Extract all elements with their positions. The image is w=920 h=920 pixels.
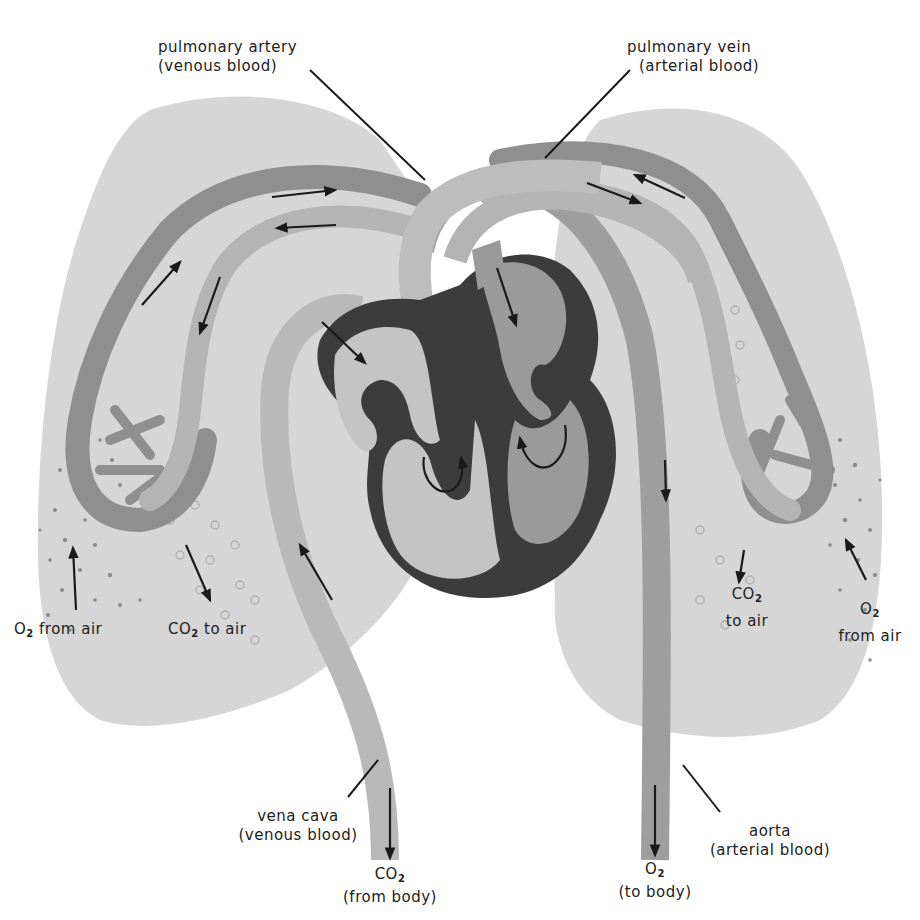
pulmonary-artery-name: pulmonary artery bbox=[158, 38, 297, 57]
vena-cava-label: vena cava (venous blood) bbox=[228, 807, 368, 845]
o2-chem: O bbox=[14, 620, 26, 638]
co2-sub: 2 bbox=[755, 593, 762, 604]
co2-sub: 2 bbox=[191, 628, 198, 639]
right-o2-label: O2 from air bbox=[825, 600, 915, 646]
pulmonary-vein-note: (arterial blood) bbox=[627, 57, 759, 76]
pulmonary-vein-name: pulmonary vein bbox=[627, 38, 759, 57]
pulmonary-vein-label: pulmonary vein (arterial blood) bbox=[627, 38, 759, 76]
vena-cava-note: (venous blood) bbox=[228, 826, 368, 845]
left-o2-label: O2 from air bbox=[14, 620, 102, 643]
o2-sub: 2 bbox=[872, 608, 879, 619]
aorta-note: (arterial blood) bbox=[690, 841, 850, 860]
co2-chem: CO bbox=[732, 585, 755, 603]
o2-text: from air bbox=[34, 620, 102, 638]
o2-body-text: (to body) bbox=[610, 883, 700, 902]
co2-chem: CO bbox=[375, 865, 398, 883]
o2-chem: O bbox=[860, 600, 872, 618]
co2-body-text: (from body) bbox=[335, 888, 445, 907]
co2-chem: CO bbox=[168, 620, 191, 638]
pulmonary-artery-label: pulmonary artery (venous blood) bbox=[158, 38, 297, 76]
o2-sub: 2 bbox=[657, 868, 664, 879]
o2-chem: O bbox=[645, 860, 657, 878]
co2-text: to air bbox=[199, 620, 247, 638]
o2-text: from air bbox=[825, 627, 915, 646]
co2-from-body-label: CO2 (from body) bbox=[335, 865, 445, 907]
right-co2-label: CO2 to air bbox=[712, 585, 782, 631]
o2-to-body-label: O2 (to body) bbox=[610, 860, 700, 902]
aorta-label: aorta (arterial blood) bbox=[690, 822, 850, 860]
circulation-diagram: pulmonary artery (venous blood) pulmonar… bbox=[0, 0, 920, 920]
o2-sub: 2 bbox=[26, 628, 33, 639]
aorta-name: aorta bbox=[690, 822, 850, 841]
co2-text: to air bbox=[712, 612, 782, 631]
vena-cava-name: vena cava bbox=[228, 807, 368, 826]
pulmonary-artery-note: (venous blood) bbox=[158, 57, 297, 76]
left-co2-label: CO2 to air bbox=[168, 620, 246, 643]
co2-sub: 2 bbox=[398, 873, 405, 884]
diagram-canvas bbox=[0, 0, 920, 920]
